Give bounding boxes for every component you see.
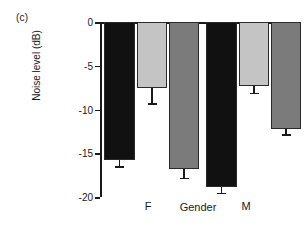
y-tick-label: -20 xyxy=(79,192,93,203)
y-tick-label: -10 xyxy=(79,104,93,115)
error-bar-stem xyxy=(151,88,153,104)
error-bar-cap xyxy=(217,193,226,195)
error-bar-cap xyxy=(115,166,124,168)
bar-F-series-3 xyxy=(169,22,199,169)
x-label-f: F xyxy=(145,200,152,212)
y-tick-mark xyxy=(95,22,100,24)
error-bar-cap xyxy=(180,178,189,180)
panel-label: (c) xyxy=(16,12,28,23)
error-bar-cap xyxy=(250,93,259,95)
x-label-m: M xyxy=(241,200,250,212)
error-bar-cap xyxy=(148,103,157,105)
bar-F-series-2 xyxy=(137,22,167,88)
bar-M-series-3 xyxy=(271,22,301,129)
bar-M-series-2 xyxy=(239,22,269,86)
y-tick-mark xyxy=(95,153,100,155)
y-tick-mark xyxy=(95,66,100,68)
bar-F-series-1 xyxy=(104,22,135,160)
y-tick-label: 0 xyxy=(87,17,93,28)
y-axis-line xyxy=(100,22,102,197)
x-axis-title: Gender xyxy=(180,201,217,213)
error-bar-stem xyxy=(253,86,255,93)
plot-area: 0 -5 -10 -15 -20 xyxy=(100,22,298,197)
figure-panel-c: (c) Noise level (dB) 0 -5 -10 -15 -20 F … xyxy=(0,0,305,232)
y-tick-label: -15 xyxy=(79,148,93,159)
y-tick-label: -5 xyxy=(84,60,93,71)
y-tick-mark xyxy=(95,110,100,112)
error-bar-cap xyxy=(282,134,291,136)
error-bar-stem xyxy=(183,169,185,178)
y-tick-mark xyxy=(95,197,100,199)
y-axis-title: Noise level (dB) xyxy=(31,6,42,126)
bar-M-series-1 xyxy=(206,22,237,187)
